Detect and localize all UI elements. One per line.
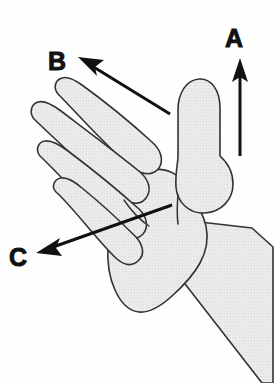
hand-axes-figure: A B C xyxy=(0,0,275,383)
label-c: C xyxy=(9,243,27,271)
figure-canvas: A B C xyxy=(0,0,275,383)
label-a: A xyxy=(225,24,243,52)
label-b: B xyxy=(48,47,66,75)
palm-crease-line xyxy=(177,195,178,224)
